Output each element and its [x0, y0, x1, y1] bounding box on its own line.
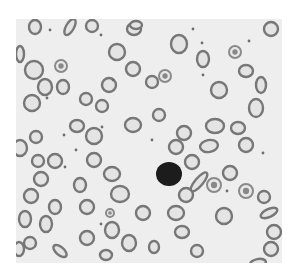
- platelet: [100, 34, 103, 37]
- red-blood-cell: [30, 131, 42, 143]
- red-blood-cell: [16, 140, 27, 156]
- crenated-cell: [106, 209, 114, 217]
- platelet: [112, 79, 115, 82]
- red-blood-cell: [239, 138, 253, 152]
- lymphocyte: [156, 162, 182, 186]
- red-blood-cell: [223, 166, 237, 180]
- red-blood-cell: [29, 20, 41, 34]
- red-blood-cell: [153, 109, 165, 121]
- platelet: [46, 97, 49, 100]
- crenated-cell: [159, 70, 171, 82]
- red-blood-cell: [40, 216, 52, 232]
- crenated-cell: [229, 46, 241, 58]
- crenated-cell: [239, 184, 253, 198]
- platelet: [151, 139, 154, 142]
- red-blood-cell: [86, 128, 102, 144]
- red-blood-cell: [258, 191, 270, 203]
- red-blood-cell: [122, 235, 136, 251]
- red-blood-cell: [267, 225, 281, 239]
- red-blood-cell: [146, 76, 158, 88]
- red-blood-cell: [216, 208, 232, 224]
- red-blood-cell: [171, 35, 187, 53]
- platelet: [192, 28, 195, 31]
- platelet: [49, 29, 52, 32]
- red-blood-cell: [130, 21, 142, 29]
- red-blood-cell: [25, 61, 43, 79]
- red-blood-cell: [105, 222, 119, 238]
- red-blood-cell: [87, 153, 101, 167]
- red-blood-cell: [19, 211, 31, 227]
- red-blood-cell: [169, 140, 183, 154]
- red-blood-cell: [264, 22, 278, 36]
- red-blood-cell: [175, 226, 189, 238]
- platelet: [226, 190, 229, 193]
- red-blood-cell: [49, 200, 61, 214]
- red-blood-cell: [32, 155, 44, 167]
- blood-smear-micrograph: [16, 19, 282, 263]
- red-blood-cell: [125, 118, 141, 132]
- red-blood-cell: [206, 119, 224, 133]
- red-blood-cell: [191, 245, 203, 257]
- red-blood-cell: [179, 188, 193, 202]
- platelet: [201, 42, 204, 45]
- crenated-cell: [207, 178, 221, 192]
- red-blood-cell: [211, 82, 227, 98]
- red-blood-cell: [104, 167, 120, 181]
- red-blood-cell: [80, 231, 94, 245]
- platelet: [100, 223, 103, 226]
- platelet: [202, 74, 205, 77]
- red-blood-cell: [24, 237, 36, 249]
- platelet: [101, 126, 104, 129]
- red-blood-cell: [111, 186, 129, 202]
- red-blood-cell: [149, 241, 159, 253]
- red-blood-cell: [80, 200, 94, 214]
- red-blood-cell: [231, 122, 245, 134]
- platelet: [262, 152, 265, 155]
- crenated-cell: [55, 60, 67, 72]
- red-blood-cell: [264, 242, 278, 256]
- platelet: [75, 149, 78, 152]
- red-blood-cell: [100, 250, 112, 260]
- micrograph-canvas: [16, 19, 282, 263]
- red-blood-cell: [16, 46, 24, 62]
- red-blood-cell: [249, 99, 263, 117]
- red-blood-cell: [177, 126, 191, 140]
- platelet: [64, 166, 67, 169]
- platelet: [248, 40, 251, 43]
- red-blood-cell: [109, 44, 125, 60]
- red-blood-cell: [38, 79, 52, 95]
- red-blood-cell: [168, 206, 184, 220]
- red-blood-cell: [256, 77, 266, 93]
- red-blood-cell: [86, 20, 98, 32]
- red-blood-cell: [185, 155, 199, 169]
- red-blood-cell: [24, 189, 38, 203]
- red-blood-cell: [24, 95, 40, 111]
- red-blood-cell: [126, 62, 140, 76]
- red-blood-cell: [239, 65, 253, 77]
- red-blood-cell: [34, 172, 48, 186]
- platelet: [63, 134, 66, 137]
- red-blood-cell: [96, 100, 108, 112]
- red-blood-cell: [74, 178, 86, 192]
- red-blood-cell: [57, 80, 69, 94]
- red-blood-cell: [70, 120, 84, 132]
- red-blood-cell: [48, 154, 62, 168]
- red-blood-cell: [16, 242, 24, 256]
- red-blood-cell: [80, 93, 92, 105]
- red-blood-cell: [136, 206, 150, 220]
- red-blood-cell: [197, 51, 209, 67]
